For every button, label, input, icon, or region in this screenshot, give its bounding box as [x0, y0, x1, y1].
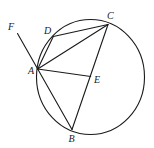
point-labels-group: A B C D E F	[7, 10, 114, 144]
point-label-d: D	[43, 25, 52, 36]
point-label-b: B	[69, 133, 75, 144]
point-label-a: A	[27, 65, 35, 76]
segment-ae	[38, 69, 91, 77]
geometry-diagram: A B C D E F	[0, 0, 154, 148]
segment-dc	[53, 25, 108, 37]
diagram-canvas: A B C D E F	[0, 0, 154, 148]
segment-fa	[18, 34, 38, 70]
segment-bc	[72, 25, 108, 130]
point-label-f: F	[7, 21, 15, 32]
point-label-c: C	[107, 10, 114, 21]
point-label-e: E	[93, 74, 100, 85]
